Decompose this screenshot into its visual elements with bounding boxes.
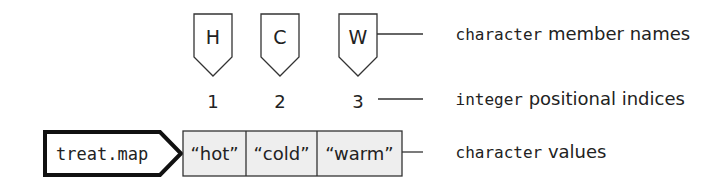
vector-name-box: treat.map [45,132,181,175]
annotation-indices: integer positional indices [433,88,698,109]
named-vector-diagram: H C W 1 2 3 treat.map “hot” “cold” “warm… [0,0,728,187]
value-cells: “hot” “cold” “warm” [183,131,402,176]
name-tag-label: C [273,26,286,48]
vector-name-label: treat.map [56,144,148,164]
index-2: 2 [274,91,285,112]
annotation-rest: member names [542,23,690,44]
value-cell-cold: “cold” [254,143,310,164]
name-tag-label: W [349,26,368,48]
annotation-values: character values [433,141,620,162]
annotation-rest: values [542,141,606,162]
name-tag-w: W [339,14,377,76]
value-cell-warm: “warm” [325,143,393,164]
name-tag-h: H [194,14,232,76]
value-cell-hot: “hot” [190,143,238,164]
annotation-type-word: character [456,143,543,162]
annotation-type-word: character [456,25,543,44]
annotation-type-word: integer [456,90,524,109]
index-1: 1 [207,91,218,112]
annotation-rest: positional indices [523,88,685,109]
name-tag-c: C [261,14,299,76]
index-3: 3 [352,91,363,112]
name-tag-label: H [206,26,220,48]
annotation-names: character member names [433,23,704,44]
